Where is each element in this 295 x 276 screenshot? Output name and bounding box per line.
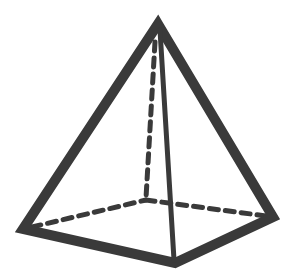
pyramid-diagram <box>0 0 295 276</box>
hidden-edge-back-right <box>146 200 266 216</box>
pyramid-svg <box>0 0 295 276</box>
hidden-edge-left-back <box>32 200 146 227</box>
hidden-edges <box>32 42 266 227</box>
front-edge-apex-front <box>160 30 174 260</box>
hidden-edge-apex-back <box>146 42 155 198</box>
